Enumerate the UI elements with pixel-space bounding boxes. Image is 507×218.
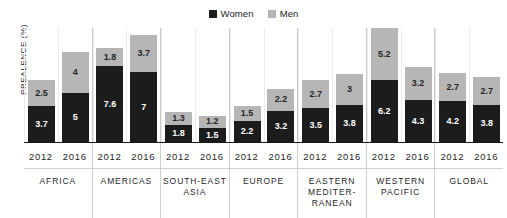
bar-cell: 2.53.7	[24, 28, 58, 143]
legend-label-men: Men	[280, 9, 299, 19]
bar-cell: 3.24.3	[401, 28, 435, 143]
x-year-row: 20122016	[367, 144, 435, 169]
x-group-label-text: EASTERNMEDITER-RANEAN	[308, 176, 356, 209]
stacked-bar[interactable]: 2.74.2	[439, 73, 466, 143]
x-group-label: EUROPE	[230, 169, 298, 218]
x-year-label: 2016	[195, 151, 229, 162]
bar-group-europe: 1.52.22.23.2	[229, 28, 298, 143]
stacked-bar[interactable]: 2.23.2	[267, 89, 294, 143]
stacked-bar[interactable]: 5.26.2	[371, 28, 398, 143]
stacked-bar[interactable]: 45	[62, 52, 89, 143]
bar-segment-men: 3.2	[405, 67, 432, 99]
bar-group-south-east-asia: 1.31.81.21.5	[160, 28, 229, 143]
bar-group-africa: 2.53.745	[24, 28, 92, 143]
bar-group-western-pacific: 5.26.23.24.3	[366, 28, 435, 143]
bar-segment-women: 5	[62, 93, 89, 143]
x-year-label: 2012	[435, 151, 469, 162]
bar-cell: 1.21.5	[195, 28, 229, 143]
bar-group-global: 2.74.22.73.8	[434, 28, 503, 143]
bar-segment-men: 1.3	[165, 112, 192, 125]
bar-cell: 1.52.2	[230, 28, 264, 143]
x-group-south-east-asia: 20122016SOUTH-EASTASIA	[160, 144, 229, 218]
stacked-bar[interactable]: 3.77	[130, 35, 157, 143]
x-group-global: 20122016GLOBAL	[434, 144, 503, 218]
bar-cell: 1.31.8	[161, 28, 195, 143]
stacked-bar[interactable]: 3.24.3	[405, 67, 432, 143]
x-year-label: 2016	[401, 151, 435, 162]
bar-cell: 45	[58, 28, 92, 143]
x-group-label: EASTERNMEDITER-RANEAN	[298, 169, 366, 218]
x-axis-line	[24, 142, 503, 144]
x-group-label-text: SOUTH-EASTASIA	[163, 176, 227, 198]
x-year-label: 2016	[126, 151, 160, 162]
x-group-label-text: WESTERNPACIFIC	[376, 176, 425, 198]
stacked-bar[interactable]: 1.52.2	[234, 106, 261, 143]
bar-segment-men: 1.2	[199, 116, 226, 128]
bar-segment-men: 1.5	[234, 106, 261, 121]
bar-segment-men: 5.2	[371, 28, 398, 80]
x-group-label: WESTERNPACIFIC	[367, 169, 435, 218]
legend-label-women: Women	[221, 9, 254, 19]
x-year-row: 20122016	[230, 144, 298, 169]
x-year-row: 20122016	[435, 144, 503, 169]
bar-segment-women: 3.7	[28, 106, 55, 143]
x-year-label: 2012	[367, 151, 401, 162]
stacked-bar[interactable]: 2.53.7	[28, 80, 55, 143]
bar-segment-men: 3	[336, 74, 363, 104]
bar-cell: 2.73.5	[298, 28, 332, 143]
stacked-bar[interactable]: 1.31.8	[165, 112, 192, 143]
bar-segment-women: 3.5	[302, 108, 329, 143]
x-group-eastern-mediterranean: 20122016EASTERNMEDITER-RANEAN	[297, 144, 366, 218]
chart-legend: Women Men	[0, 6, 507, 22]
x-group-europe: 20122016EUROPE	[229, 144, 298, 218]
x-year-label: 2016	[264, 151, 298, 162]
x-year-label: 2012	[24, 151, 58, 162]
bar-segment-women: 3.2	[267, 111, 294, 143]
x-year-label: 2016	[58, 151, 92, 162]
stacked-bar[interactable]: 2.73.8	[473, 77, 500, 143]
legend-swatch-women	[209, 10, 217, 18]
x-group-label: SOUTH-EASTASIA	[161, 169, 229, 218]
x-year-label: 2012	[161, 151, 195, 162]
bar-segment-men: 4	[62, 52, 89, 92]
x-year-label: 2016	[469, 151, 503, 162]
bar-cell: 33.8	[332, 28, 366, 143]
bar-cell: 2.73.8	[469, 28, 503, 143]
stacked-bar[interactable]: 33.8	[336, 74, 363, 143]
x-group-americas: 20122016AMERICAS	[92, 144, 161, 218]
bar-segment-women: 7	[130, 72, 157, 143]
x-group-africa: 20122016AFRICA	[24, 144, 92, 218]
plot-area: 2.53.7451.87.63.771.31.81.21.51.52.22.23…	[24, 28, 503, 143]
x-group-label: AMERICAS	[93, 169, 161, 218]
x-year-row: 20122016	[161, 144, 229, 169]
x-group-western-pacific: 20122016WESTERNPACIFIC	[366, 144, 435, 218]
bar-segment-men: 2.2	[267, 89, 294, 111]
x-year-row: 20122016	[298, 144, 366, 169]
legend-item-men[interactable]: Men	[268, 9, 299, 19]
x-group-label: GLOBAL	[435, 169, 503, 218]
bar-segment-women: 2.2	[234, 121, 261, 143]
bar-segment-men: 2.5	[28, 80, 55, 105]
bar-segment-women: 3.8	[473, 105, 500, 143]
bar-segment-women: 3.8	[336, 105, 363, 143]
bar-group-americas: 1.87.63.77	[92, 28, 161, 143]
bar-groups: 2.53.7451.87.63.771.31.81.21.51.52.22.23…	[24, 28, 503, 143]
bar-segment-men: 2.7	[302, 80, 329, 107]
bar-segment-men: 3.7	[130, 35, 157, 72]
bar-segment-women: 4.3	[405, 100, 432, 143]
x-year-row: 20122016	[24, 144, 92, 169]
stacked-bar[interactable]: 1.21.5	[199, 116, 226, 143]
legend-item-women[interactable]: Women	[209, 9, 254, 19]
bar-group-eastern-mediterranean: 2.73.533.8	[297, 28, 366, 143]
bar-cell: 3.77	[126, 28, 160, 143]
bar-segment-men: 2.7	[439, 73, 466, 100]
legend-swatch-men	[268, 10, 276, 18]
x-year-row: 20122016	[93, 144, 161, 169]
stacked-bar[interactable]: 2.73.5	[302, 80, 329, 143]
stacked-bar[interactable]: 1.87.6	[96, 48, 123, 143]
bar-segment-women: 7.6	[96, 66, 123, 143]
x-year-label: 2012	[298, 151, 332, 162]
bar-segment-women: 4.2	[439, 101, 466, 143]
bar-segment-men: 1.8	[96, 48, 123, 66]
x-year-label: 2016	[332, 151, 366, 162]
